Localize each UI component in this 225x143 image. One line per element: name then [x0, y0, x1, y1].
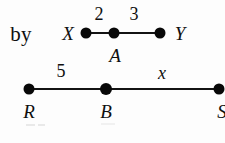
lead-text: by — [10, 24, 31, 45]
point-x-dot — [81, 28, 92, 39]
point-b-dot — [100, 83, 112, 95]
measure-label-r-b: 5 — [57, 62, 66, 80]
figure-canvas: by X Y A 2 3 R S B 5 x — [0, 0, 225, 143]
point-y-dot — [155, 28, 166, 39]
measure-label-x-a: 2 — [95, 5, 104, 23]
measure-label-a-y: 3 — [130, 5, 139, 23]
segment-a-y — [114, 32, 160, 34]
point-label-b: B — [100, 102, 112, 121]
measure-label-b-s: x — [158, 64, 166, 82]
point-label-r: R — [23, 102, 35, 121]
segment-r-b — [29, 88, 106, 90]
point-a-dot — [109, 28, 120, 39]
scan-artifact — [38, 124, 45, 126]
scan-artifact — [101, 123, 115, 125]
point-label-x: X — [62, 24, 74, 43]
segment-b-s — [106, 88, 219, 90]
scan-artifact — [26, 124, 35, 126]
point-label-s: S — [217, 102, 225, 121]
point-label-a: A — [109, 46, 121, 65]
point-s-dot — [214, 84, 225, 95]
point-r-dot — [24, 84, 35, 95]
point-label-y: Y — [175, 24, 186, 43]
